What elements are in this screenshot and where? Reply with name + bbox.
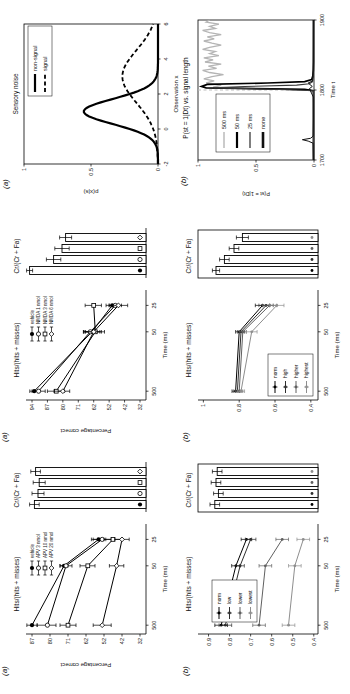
svg-text:APV 10 nmol: APV 10 nmol	[43, 532, 48, 558]
svg-text:0.9: 0.9	[206, 638, 212, 646]
panel-title-cr: Cr/(Cr + Fa)	[13, 458, 20, 522]
svg-text:32: 32	[137, 404, 143, 410]
svg-text:0: 0	[311, 164, 317, 167]
svg-text:87: 87	[44, 404, 50, 410]
chart-middle-a-line: 94878071625242325005025Time (ms)Percenta…	[24, 286, 174, 438]
panel-title-cr: Cr/(Cr + Fa)	[13, 224, 20, 288]
svg-text:none: none	[260, 117, 266, 129]
svg-text:500 ms: 500 ms	[221, 111, 227, 129]
panel-title-hits: Hits/(hits + misses)	[13, 524, 20, 644]
svg-text:vehicle: vehicle	[30, 543, 35, 558]
svg-text:50: 50	[323, 563, 329, 569]
svg-text:0.5: 0.5	[290, 638, 296, 646]
svg-text:Time (ms): Time (ms)	[334, 332, 340, 359]
svg-text:APV 3 nmol: APV 3 nmol	[36, 534, 41, 558]
svg-text:4: 4	[163, 57, 169, 60]
panel-title-hits: Hits/(hits + misses)	[185, 290, 192, 410]
svg-text:50: 50	[323, 329, 329, 335]
chart-middle-a-bars	[24, 224, 174, 280]
svg-text:87: 87	[29, 638, 35, 644]
svg-text:Time (ms): Time (ms)	[162, 332, 168, 359]
figure-stage: (a) (b) Hits/(hits + misses) Cr/(Cr + Fa…	[0, 0, 350, 694]
panel-label-b: (b)	[182, 432, 190, 442]
svg-text:50 ms: 50 ms	[234, 114, 240, 129]
svg-text:NMDA 6 nmol: NMDA 6 nmol	[49, 296, 54, 324]
svg-text:Time (ms): Time (ms)	[334, 566, 340, 593]
svg-text:1: 1	[200, 404, 206, 407]
panel-label-b: (b)	[182, 666, 190, 676]
svg-text:25: 25	[323, 536, 329, 542]
chart-middle-b-bars	[196, 224, 346, 280]
chart-middle-b-line: 10.80.60.45005025Time (ms)normhighhigher…	[196, 286, 346, 438]
svg-text:52: 52	[101, 638, 107, 644]
chart-left-a-bars	[24, 458, 174, 514]
chart-right-b-belief: 00.51170018001900Time tP(st = 1|Dt)500 m…	[190, 0, 348, 200]
svg-text:500: 500	[323, 621, 329, 630]
svg-text:high: high	[283, 369, 288, 378]
svg-text:25: 25	[151, 302, 157, 308]
svg-text:Percentage correct: Percentage correct	[60, 662, 111, 668]
svg-text:0.5: 0.5	[88, 168, 94, 176]
svg-text:0.7: 0.7	[248, 638, 254, 646]
svg-text:0: 0	[163, 127, 169, 130]
figure-viewport: (a) (b) Hits/(hits + misses) Cr/(Cr + Fa…	[0, 0, 350, 694]
svg-text:p(x|s): p(x|s)	[84, 189, 99, 195]
svg-text:25: 25	[151, 536, 157, 542]
svg-text:lower: lower	[238, 592, 243, 604]
svg-text:0.4: 0.4	[311, 638, 317, 646]
svg-text:500: 500	[151, 387, 157, 396]
svg-text:NMDA 1 nmol: NMDA 1 nmol	[36, 296, 41, 324]
svg-text:highest: highest	[304, 362, 309, 378]
panel-title-hits: Hits/(hits + misses)	[13, 290, 20, 410]
panel-label-a: (a)	[2, 179, 10, 189]
svg-text:1: 1	[195, 164, 201, 167]
svg-text:0.4: 0.4	[308, 404, 314, 412]
svg-text:non-signal: non-signal	[32, 46, 38, 71]
svg-text:P(st = 1|Dt): P(st = 1|Dt)	[242, 191, 270, 197]
svg-text:vehicle: vehicle	[30, 309, 35, 324]
svg-text:94: 94	[29, 404, 35, 410]
svg-text:NMDA 3 nmol: NMDA 3 nmol	[43, 296, 48, 324]
svg-text:0.8: 0.8	[227, 638, 233, 646]
chart-right-a-sensory: 00.51-20246Observation xp(x|s)non-signal…	[14, 0, 182, 200]
panel-label-a: (a)	[1, 666, 9, 676]
svg-text:signal: signal	[42, 57, 48, 71]
svg-text:50: 50	[151, 329, 157, 335]
svg-text:0.6: 0.6	[272, 404, 278, 412]
svg-text:62: 62	[91, 404, 97, 410]
svg-text:norm: norm	[217, 593, 222, 604]
svg-text:71: 71	[75, 404, 81, 410]
svg-text:Time t: Time t	[330, 81, 336, 98]
svg-text:52: 52	[106, 404, 112, 410]
svg-text:1900: 1900	[319, 14, 325, 26]
svg-text:62: 62	[83, 638, 89, 644]
svg-text:25: 25	[323, 302, 329, 308]
svg-text:500: 500	[323, 387, 329, 396]
svg-text:25 ms: 25 ms	[247, 114, 253, 129]
svg-text:6: 6	[163, 22, 169, 25]
panel-title-hits: Hits/(hits + misses)	[185, 524, 192, 644]
svg-text:42: 42	[119, 638, 125, 644]
svg-text:norm: norm	[273, 367, 278, 378]
svg-text:APV 20 nmol: APV 20 nmol	[49, 532, 54, 558]
svg-text:80: 80	[60, 404, 66, 410]
panel-label-a: (a)	[1, 432, 9, 442]
svg-text:42: 42	[122, 404, 128, 410]
chart-left-b-line: 0.90.80.70.60.50.45005025Time (ms)normlo…	[196, 520, 346, 672]
svg-text:Time (ms): Time (ms)	[162, 566, 168, 593]
svg-text:0.6: 0.6	[269, 638, 275, 646]
svg-text:Observation x: Observation x	[173, 75, 179, 112]
svg-text:1: 1	[21, 168, 27, 171]
svg-text:1800: 1800	[319, 84, 325, 96]
svg-text:71: 71	[65, 638, 71, 644]
svg-text:0: 0	[155, 168, 161, 171]
svg-text:500: 500	[151, 621, 157, 630]
svg-text:lowest: lowest	[248, 590, 253, 604]
svg-text:80: 80	[47, 638, 53, 644]
figure-group-middle: (a) (b) Hits/(hits + misses) Cr/(Cr + Fa…	[0, 228, 350, 458]
svg-text:-2: -2	[163, 162, 169, 167]
svg-text:2: 2	[163, 92, 169, 95]
panel-title-cr: Cr/(Cr + Fa)	[185, 224, 192, 288]
chart-left-b-bars	[196, 458, 346, 514]
panel-title-cr: Cr/(Cr + Fa)	[185, 458, 192, 522]
